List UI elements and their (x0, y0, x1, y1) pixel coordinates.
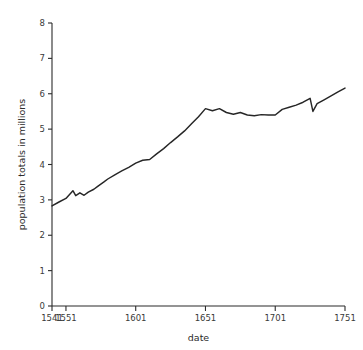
x-tick-label: 1651 (195, 313, 217, 323)
y-tick-label: 5 (40, 124, 45, 134)
x-tick-label: 1701 (264, 313, 286, 323)
y-tick-label: 7 (40, 53, 45, 63)
line-chart-canvas: 012345678 population totals in millions … (0, 0, 363, 350)
y-axis-group: 012345678 population totals in millions (16, 18, 52, 311)
y-tick-label: 3 (40, 195, 45, 205)
chart-figure: 012345678 population totals in millions … (0, 0, 363, 350)
y-tick-label: 2 (40, 230, 45, 240)
data-series-group (52, 88, 345, 206)
y-tick-label: 1 (40, 266, 45, 276)
y-tick-label: 8 (40, 18, 45, 28)
y-tick-label: 0 (40, 301, 45, 311)
data-line-population (52, 88, 345, 206)
x-axis-group: 154115511601165117011751 date (41, 306, 356, 343)
x-tick-group: 154115511601165117011751 (41, 306, 356, 323)
y-axis-title: population totals in millions (16, 99, 27, 231)
x-tick-label: 1601 (125, 313, 147, 323)
y-tick-label: 4 (40, 160, 45, 170)
y-tick-group: 012345678 (40, 18, 52, 311)
x-axis-title: date (188, 332, 210, 343)
y-tick-label: 6 (40, 89, 45, 99)
x-tick-label: 1751 (334, 313, 356, 323)
x-tick-label: 1551 (55, 313, 77, 323)
